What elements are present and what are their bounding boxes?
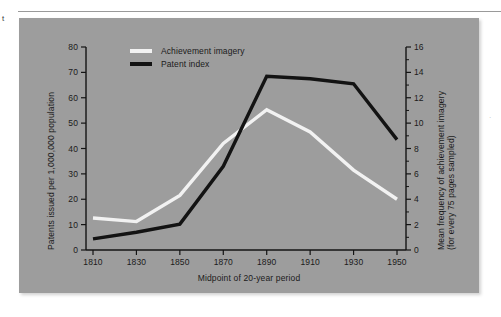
chart-legend: Achievement imagery Patent index [130,44,330,70]
x-axis-tick-label: 1890 [253,257,281,267]
x-axis-tick-label: 1810 [79,257,107,267]
x-axis-tick-label: 1830 [122,257,150,267]
y-axis-right-title-line2: (for every 75 pages sampled) [446,135,456,250]
legend-item-patent-index: Patent index [130,57,330,70]
x-axis-tick-label: 1870 [209,257,237,267]
y-axis-right-tick-label: 2 [414,220,419,230]
y-axis-right-tick-label: 14 [414,67,424,77]
legend-label-achievement-imagery: Achievement imagery [161,46,245,56]
y-axis-right-tick-label: 16 [414,42,424,52]
legend-item-achievement-imagery: Achievement imagery [130,44,330,57]
x-axis-tick-label: 1910 [296,257,324,267]
legend-label-patent-index: Patent index [161,59,209,69]
y-axis-right-tick-label: 8 [414,144,419,154]
y-axis-left-tick-label: 80 [19,42,78,52]
x-axis-title: Midpoint of 20-year period [19,273,479,283]
chart-panel: 01020304050607080 0246810121416 18101830… [19,18,479,293]
x-axis-tick-label: 1850 [166,257,194,267]
y-axis-right-title-line1: Mean frequency of achievement imagery [436,91,446,250]
legend-swatch-icon-patent-index [130,62,152,66]
y-axis-right-tick-label: 4 [414,194,419,204]
y-axis-right-tick-label: 12 [414,93,424,103]
y-axis-right-tick-label: 6 [414,169,419,179]
y-axis-right-tick-label: 10 [414,118,424,128]
x-axis-tick-label: 1930 [340,257,368,267]
series-line-achievement-imagery [93,110,397,222]
x-axis-tick-label: 1950 [383,257,411,267]
y-axis-right-tick-label: 0 [414,245,419,255]
y-axis-left-tick-label: 70 [19,67,78,77]
y-axis-left-title: Patents issued per 1,000,000 population [46,92,56,250]
series-line-patent-index [93,76,397,239]
legend-swatch-icon-achievement-imagery [130,49,152,53]
